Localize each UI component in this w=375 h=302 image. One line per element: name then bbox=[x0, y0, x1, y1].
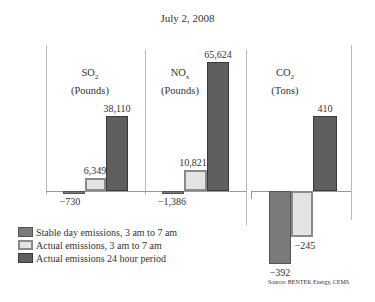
panel-label-nox: NOx(Pounds) bbox=[150, 66, 210, 97]
panel-label-co2: CO2(Tons) bbox=[255, 66, 315, 97]
legend-item-actual: Actual emissions, 3 am to 7 am bbox=[18, 239, 162, 251]
panel-divider bbox=[145, 50, 146, 195]
bar-co2-actual bbox=[291, 191, 313, 237]
bar-so2-stable bbox=[63, 191, 85, 194]
legend-item-stable: Stable day emissions, 3 am to 7 am bbox=[18, 226, 177, 238]
bar-so2-actual bbox=[85, 178, 106, 191]
source-note: Source: BENTEK Energy, CEMS bbox=[268, 279, 349, 285]
legend-label: Actual emissions, 3 am to 7 am bbox=[36, 240, 162, 251]
bar-so2-24h bbox=[106, 116, 128, 191]
legend-swatch-actual bbox=[18, 240, 33, 250]
panel-label-so2: SO2(Pounds) bbox=[60, 66, 120, 97]
legend-swatch-stable bbox=[18, 227, 33, 237]
value-so2-24h: 38,110 bbox=[92, 103, 142, 114]
value-co2-actual: −245 bbox=[280, 240, 330, 251]
value-nox-24h: 65,624 bbox=[193, 49, 243, 60]
legend-label: Stable day emissions, 3 am to 7 am bbox=[36, 227, 177, 238]
value-so2-stable: −730 bbox=[45, 196, 95, 207]
bar-nox-stable bbox=[162, 191, 184, 194]
value-so2-actual: 6,349 bbox=[70, 165, 120, 176]
value-nox-actual: 10,821 bbox=[168, 157, 218, 168]
chart-title: July 2, 2008 bbox=[0, 12, 375, 24]
bar-co2-24h bbox=[313, 116, 337, 191]
panel-divider bbox=[351, 45, 352, 220]
legend-swatch-24h bbox=[18, 253, 33, 263]
bar-co2-stable bbox=[269, 191, 291, 264]
value-co2-stable: −392 bbox=[255, 267, 305, 278]
panel-divider bbox=[46, 45, 47, 195]
legend-label: Actual emissions 24 hour period bbox=[36, 253, 166, 264]
bar-nox-24h bbox=[207, 62, 229, 191]
axis-tick bbox=[251, 191, 252, 199]
bar-nox-actual bbox=[184, 170, 207, 191]
value-nox-stable: −1,386 bbox=[147, 196, 197, 207]
panel-divider bbox=[246, 50, 247, 225]
legend-item-24h: Actual emissions 24 hour period bbox=[18, 252, 166, 264]
value-co2-24h: 410 bbox=[300, 103, 350, 114]
